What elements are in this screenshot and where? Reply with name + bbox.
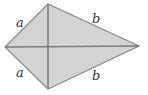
label-bottom-right: b <box>92 68 100 83</box>
label-bottom-left: a <box>16 65 24 80</box>
horizontal-diagonal <box>5 46 139 47</box>
kite-diagram: a a b b <box>0 0 148 95</box>
label-top-right: b <box>92 11 100 26</box>
label-top-left: a <box>16 15 24 30</box>
